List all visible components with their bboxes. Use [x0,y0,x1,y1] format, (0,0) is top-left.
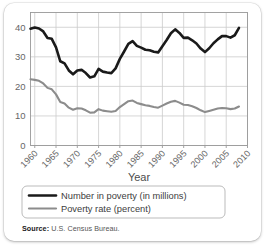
x-tick-label: 2010 [231,148,252,169]
x-axis-title: Year [128,171,151,183]
poverty-line-chart: 0102030401960196519701975198019851990199… [0,0,271,248]
source-text: U.S. Census Bureau. [51,224,119,233]
x-tick-label: 2005 [210,148,231,169]
series-line-1 [31,28,239,78]
y-tick-label: 10 [15,110,26,121]
chart-series-group [31,28,239,113]
x-axis-tick-labels: 1960196519701975198019851990199520002005… [18,146,252,170]
plot-frame [31,13,248,146]
series-line-2 [31,79,239,112]
x-tick-label: 2000 [189,148,210,169]
x-tick-label: 1960 [18,148,39,169]
x-tick-label: 1980 [104,148,125,169]
poverty-chart-figure: 0102030401960196519701975198019851990199… [0,0,271,248]
x-tick-label: 1985 [125,148,146,169]
chart-legend: Number in poverty (in millions)Poverty r… [22,186,225,218]
y-tick-label: 0 [20,140,25,151]
x-tick-label: 1995 [167,148,188,169]
source-label: Source: [22,224,49,233]
x-tick-label: 1990 [146,148,167,169]
x-tick-label: 1975 [82,148,103,169]
x-tick-label: 1965 [40,148,61,169]
y-axis-tick-labels: 010203040 [15,22,26,151]
y-tick-label: 20 [15,81,26,92]
x-tick-label: 1970 [61,148,82,169]
source-note: Source: U.S. Census Bureau. [22,224,120,233]
legend-item-label: Number in poverty (in millions) [61,191,187,201]
y-tick-label: 30 [15,51,26,62]
y-tick-label: 40 [15,22,26,33]
legend-item-label: Poverty rate (percent) [61,204,151,214]
chart-gridlines [31,13,248,146]
